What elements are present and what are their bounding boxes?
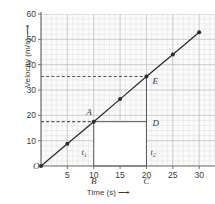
data-point-marker bbox=[39, 164, 43, 168]
x-axis-arrow: ⟶ bbox=[118, 188, 128, 197]
x-axis-title-text: Time (s) bbox=[87, 188, 116, 197]
data-point-marker bbox=[118, 97, 122, 101]
data-point-marker bbox=[197, 30, 201, 34]
point-label-a: A bbox=[85, 107, 92, 117]
interval-label-t2: t₂ bbox=[150, 147, 155, 157]
y-axis-title-text: Velocity (m/s) bbox=[23, 38, 32, 87]
rectangle-abcd-fill bbox=[94, 122, 147, 166]
point-label-c: C bbox=[143, 176, 150, 186]
y-tick-label: 20 bbox=[27, 110, 37, 120]
point-label-e: E bbox=[151, 76, 158, 86]
x-tick-label: 30 bbox=[194, 170, 204, 180]
y-axis-arrow: ⟶ bbox=[23, 26, 32, 36]
interval-label-t1: t₁ bbox=[81, 147, 86, 157]
origin-label: O bbox=[33, 161, 40, 171]
y-axis-title: Velocity (m/s) ⟶ bbox=[23, 2, 32, 112]
data-point-marker bbox=[144, 75, 148, 79]
x-axis-title: Time (s) ⟶ bbox=[0, 188, 215, 197]
chart-canvas: 102030405060 51015202530 ABCDE t₁t₂ O bbox=[0, 0, 215, 204]
x-axis-ticks: 51015202530 bbox=[65, 166, 204, 180]
data-point-marker bbox=[92, 120, 96, 124]
point-label-d: D bbox=[151, 118, 159, 128]
point-label-b: B bbox=[91, 176, 97, 186]
data-point-marker bbox=[171, 53, 175, 57]
y-tick-label: 10 bbox=[27, 136, 37, 146]
x-tick-label: 15 bbox=[115, 170, 125, 180]
velocity-time-graph-figure: 102030405060 51015202530 ABCDE t₁t₂ O Ve… bbox=[0, 0, 215, 204]
x-tick-label: 5 bbox=[65, 170, 70, 180]
x-tick-label: 25 bbox=[168, 170, 178, 180]
data-point-marker bbox=[65, 142, 69, 146]
